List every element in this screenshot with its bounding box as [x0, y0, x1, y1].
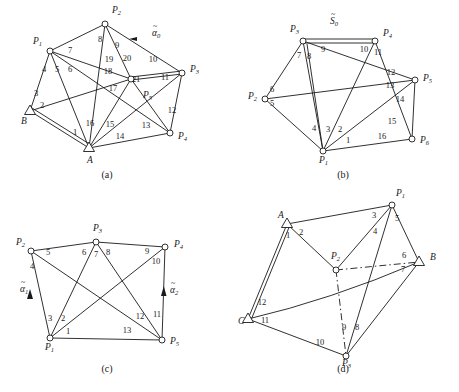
- edge-label-b-2: 2: [338, 124, 342, 134]
- edge-label-a-21: 21: [132, 74, 141, 84]
- node-label-a-A: A: [86, 155, 93, 165]
- annotation-tilde-c-alpha1: ~: [21, 278, 26, 287]
- edge-label-a-1: 1: [73, 127, 77, 137]
- node-c-P1[interactable]: [47, 335, 53, 341]
- edge-label-b-12: 12: [387, 67, 396, 77]
- figure-container: P2P1P3P5P4BA1234567891011121314151617181…: [0, 0, 459, 392]
- edge-label-b-8: 8: [307, 51, 311, 61]
- edge-label-a-2: 2: [40, 100, 44, 110]
- edge-label-a-20: 20: [123, 53, 132, 63]
- edge-label-b-16: 16: [378, 131, 387, 141]
- edge-label-a-11: 11: [161, 72, 169, 82]
- edge-label-b-14: 14: [396, 94, 405, 104]
- annotation-tilde-c-alpha2: ~: [171, 279, 176, 288]
- annotation-tilde-b-S0: ~: [331, 10, 336, 19]
- edge-label-c-6: 6: [82, 247, 86, 257]
- edge-label-b-3: 3: [326, 124, 330, 134]
- edge-label-b-10: 10: [360, 44, 369, 54]
- edge-label-c-5: 5: [46, 247, 50, 257]
- node-d-P1[interactable]: [389, 202, 395, 208]
- panel-caption-c: (c): [101, 363, 112, 375]
- edge-label-a-6: 6: [68, 64, 72, 74]
- node-P4[interactable]: [167, 130, 173, 136]
- edge-label-b-13: 13: [386, 80, 395, 90]
- edge-label-c-8: 8: [106, 247, 110, 257]
- edge-label-c-3: 3: [48, 313, 52, 323]
- edge-label-d-9: 9: [342, 322, 346, 332]
- edge-label-c-7: 7: [94, 249, 98, 259]
- node-P1[interactable]: [47, 48, 53, 54]
- edge-label-a-8: 8: [98, 34, 102, 44]
- edge-label-a-18: 18: [104, 66, 113, 76]
- node-c-P2[interactable]: [28, 248, 34, 254]
- edge-label-a-15: 15: [106, 119, 115, 129]
- edge-label-c-13: 13: [123, 325, 132, 335]
- edge-label-b-15: 15: [388, 116, 397, 126]
- node-b-P4[interactable]: [372, 38, 378, 44]
- edge-label-b-11: 11: [374, 47, 382, 57]
- edge-label-b-6: 6: [270, 84, 274, 94]
- edge-label-a-14: 14: [116, 131, 125, 141]
- node-c-P4[interactable]: [162, 244, 168, 250]
- node-b-P2[interactable]: [262, 96, 268, 102]
- edge-label-d-7: 7: [401, 264, 405, 274]
- panel-caption-b: (b): [337, 169, 349, 181]
- edge-label-a-19: 19: [105, 54, 114, 64]
- edge-label-a-13: 13: [142, 120, 151, 130]
- edge-label-c-2: 2: [61, 313, 65, 323]
- edge-label-d-3: 3: [372, 210, 376, 220]
- edge-label-d-1: 1: [286, 230, 290, 240]
- node-label-d-B: B: [430, 252, 436, 262]
- node-P2[interactable]: [102, 21, 108, 27]
- edge-label-d-5: 5: [395, 213, 399, 223]
- edge-label-c-1: 1: [66, 326, 70, 336]
- node-b-P5[interactable]: [412, 77, 418, 83]
- edge-label-a-3: 3: [34, 88, 38, 98]
- edge-label-a-5: 5: [55, 64, 59, 74]
- edge-label-b-1: 1: [346, 135, 350, 145]
- edge-label-d-8: 8: [355, 322, 359, 332]
- edge-label-a-16: 16: [86, 118, 95, 128]
- panel-caption-a: (a): [101, 169, 112, 181]
- node-c-P5[interactable]: [159, 337, 165, 343]
- edge-label-b-7: 7: [297, 50, 301, 60]
- node-c-P3[interactable]: [93, 239, 99, 245]
- edge-label-a-12: 12: [168, 105, 177, 115]
- edge-label-a-10: 10: [149, 54, 158, 64]
- edge-label-a-17: 17: [109, 83, 118, 93]
- node-label-d-C: C: [238, 316, 245, 326]
- edge-label-c-11: 11: [153, 309, 161, 319]
- edge-label-d-6: 6: [402, 250, 406, 260]
- edge-label-a-7: 7: [68, 45, 72, 55]
- edge-label-d-10: 10: [316, 337, 325, 347]
- edge-label-c-9: 9: [145, 246, 149, 256]
- edge-label-d-11: 11: [261, 315, 269, 325]
- edge-label-c-10: 10: [152, 256, 161, 266]
- node-label-a-B: B: [21, 116, 27, 126]
- annotation-tilde-a-alpha0: ~: [153, 22, 158, 31]
- edge-label-a-9: 9: [115, 40, 119, 50]
- node-b-P3[interactable]: [300, 38, 306, 44]
- node-b-P6[interactable]: [409, 136, 415, 142]
- node-P3[interactable]: [179, 70, 185, 76]
- edge-label-d-2: 2: [299, 227, 303, 237]
- node-d-P2[interactable]: [333, 267, 339, 273]
- edge-label-b-9: 9: [321, 44, 325, 54]
- node-b-P1[interactable]: [320, 148, 326, 154]
- figure-svg: P2P1P3P5P4BA1234567891011121314151617181…: [0, 0, 459, 392]
- edge-label-d-12: 12: [258, 297, 267, 307]
- edge-label-b-5: 5: [270, 98, 274, 108]
- edge-label-c-12: 12: [136, 311, 145, 321]
- node-label-d-A: A: [277, 210, 284, 220]
- panel-caption-d: (d): [337, 363, 349, 375]
